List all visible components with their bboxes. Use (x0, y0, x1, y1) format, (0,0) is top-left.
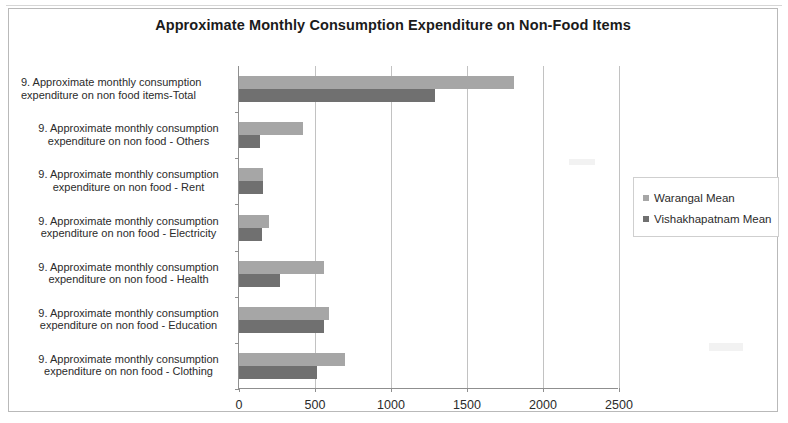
category-label: 9. Approximate monthly consumptionexpend… (21, 353, 236, 378)
scan-smudge (709, 343, 743, 351)
bar-warangal (239, 307, 329, 320)
scan-smudge (569, 159, 595, 165)
category-label: 9. Approximate monthly consumptionexpend… (21, 122, 236, 147)
chart-legend: Warangal MeanVishakhapatnam Mean (633, 177, 779, 237)
x-axis-tick-label: 1000 (377, 398, 405, 412)
y-axis-tick (235, 297, 239, 298)
bar-warangal (239, 122, 303, 135)
category-label: 9. Approximate monthly consumptionexpend… (21, 307, 236, 332)
x-axis-tick-label: 2000 (529, 398, 557, 412)
category-label-line: expenditure on non food - Education (21, 319, 236, 332)
category-label: 9. Approximate monthly consumptionexpend… (21, 261, 236, 286)
bar-warangal (239, 76, 514, 89)
category-label-line: 9. Approximate monthly consumption (21, 122, 236, 135)
bar-rows (239, 66, 619, 389)
bar-warangal (239, 353, 345, 366)
x-axis-tick (391, 388, 392, 392)
y-axis-tick (235, 112, 239, 113)
bar-row (239, 76, 619, 102)
legend-label: Warangal Mean (654, 192, 735, 204)
x-axis-tick (315, 388, 316, 392)
bar-vishakhapatnam (239, 274, 280, 287)
legend-label: Vishakhapatnam Mean (654, 213, 771, 225)
bar-row (239, 215, 619, 241)
bar-warangal (239, 261, 324, 274)
category-label-line: expenditure on non food - Health (21, 273, 236, 286)
y-axis-tick (235, 389, 239, 390)
plot-area: 05001000150020002500 (238, 66, 618, 389)
category-label-line: expenditure on non food - Clothing (21, 365, 236, 378)
category-label: 9. Approximate monthly consumptionexpend… (21, 168, 236, 193)
bar-vishakhapatnam (239, 228, 262, 241)
category-label-line: expenditure on non food - Rent (21, 181, 236, 194)
bar-vishakhapatnam (239, 366, 317, 379)
category-label-line: 9. Approximate monthly consumption (21, 215, 236, 228)
chart-frame: Approximate Monthly Consumption Expendit… (8, 8, 778, 412)
bar-row (239, 122, 619, 148)
gridline (619, 66, 620, 388)
scan-top-rule (6, 5, 782, 6)
y-axis-tick (235, 343, 239, 344)
legend-item[interactable]: Warangal Mean (643, 192, 770, 204)
x-axis-tick-label: 2500 (605, 398, 633, 412)
bar-warangal (239, 215, 269, 228)
x-axis-tick (467, 388, 468, 392)
x-axis-tick-label: 500 (305, 398, 326, 412)
y-axis-tick (235, 158, 239, 159)
y-axis-tick (235, 204, 239, 205)
category-label: 9. Approximate monthly consumptionexpend… (21, 76, 236, 101)
bar-vishakhapatnam (239, 320, 324, 333)
category-axis-labels: 9. Approximate monthly consumptionexpend… (21, 66, 236, 389)
chart-title: Approximate Monthly Consumption Expendit… (9, 17, 777, 33)
bar-row (239, 353, 619, 379)
bar-row (239, 168, 619, 194)
x-axis-tick (619, 388, 620, 392)
bar-row (239, 307, 619, 333)
category-label-line: 9. Approximate monthly consumption (21, 353, 236, 366)
x-axis-labels: 05001000150020002500 (239, 389, 619, 415)
legend-swatch-icon (643, 195, 649, 201)
x-axis-tick (239, 388, 240, 392)
category-label-line: expenditure on non food items-Total (21, 89, 236, 102)
y-axis-tick (235, 251, 239, 252)
category-label: 9. Approximate monthly consumptionexpend… (21, 215, 236, 240)
legend-swatch-icon (643, 216, 649, 222)
x-axis-tick (543, 388, 544, 392)
bar-vishakhapatnam (239, 181, 263, 194)
category-label-line: 9. Approximate monthly consumption (21, 168, 236, 181)
bar-row (239, 261, 619, 287)
category-label-line: 9. Approximate monthly consumption (21, 307, 236, 320)
x-axis-tick-label: 0 (236, 398, 243, 412)
category-label-line: 9. Approximate monthly consumption (21, 261, 236, 274)
legend-item[interactable]: Vishakhapatnam Mean (643, 213, 770, 225)
category-label-line: 9. Approximate monthly consumption (21, 76, 236, 89)
category-label-line: expenditure on non food - Others (21, 135, 236, 148)
category-label-line: expenditure on non food - Electricity (21, 227, 236, 240)
bar-warangal (239, 168, 263, 181)
x-axis-tick-label: 1500 (453, 398, 481, 412)
bar-vishakhapatnam (239, 89, 435, 102)
bar-vishakhapatnam (239, 135, 260, 148)
